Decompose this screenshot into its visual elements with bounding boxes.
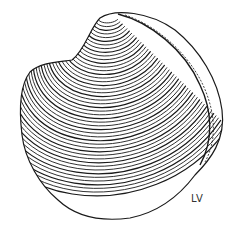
view-label: LV [191, 193, 203, 204]
